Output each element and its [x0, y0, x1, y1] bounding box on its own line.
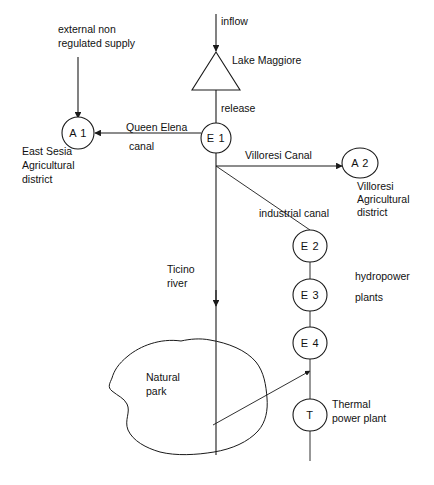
label-villoresi-district-line3: district [357, 206, 387, 218]
label-villoresi-canal: Villoresi Canal [245, 149, 312, 161]
label-queen-elena-canal-line1: Queen Elena [126, 121, 187, 133]
node-e1-label: E 1 [207, 132, 225, 144]
node-t-label: T [306, 409, 313, 421]
label-east-sesia-line2: Agricultural [22, 159, 75, 171]
label-hydropower-line2: plants [355, 291, 383, 303]
label-hydropower-line1: hydropower [355, 270, 410, 282]
label-inflow: inflow [221, 15, 248, 27]
label-thermal-plant-line1: Thermal [332, 398, 371, 410]
label-villoresi-district-line2: Agricultural [357, 193, 410, 205]
diagram-svg: A 1 E 1 A 2 E 2 E 3 E 4 T external non r… [0, 0, 434, 485]
node-e4-label: E 4 [301, 337, 319, 349]
label-natural-park-line2: park [146, 385, 167, 397]
node-natural-park-outline [109, 339, 267, 455]
label-release: release [221, 102, 256, 114]
label-lake-maggiore: Lake Maggiore [232, 54, 302, 66]
node-e3-label: E 3 [301, 289, 319, 301]
label-thermal-plant-line2: power plant [332, 412, 386, 424]
label-east-sesia-line3: district [22, 173, 52, 185]
label-queen-elena-canal-line2: canal [129, 140, 154, 152]
node-a1-label: A 1 [69, 127, 87, 139]
label-external-supply-line2: regulated supply [58, 37, 136, 49]
label-external-supply-line1: external non [58, 23, 116, 35]
node-a2-label: A 2 [351, 157, 369, 169]
label-ticino-river-line1: Ticino [167, 263, 195, 275]
label-villoresi-district-line1: Villoresi [357, 180, 394, 192]
node-e2-label: E 2 [301, 240, 319, 252]
label-ticino-river-line2: river [167, 277, 188, 289]
label-east-sesia-line1: East Sesia [22, 145, 72, 157]
edge-industrial-canal-to-e2 [216, 166, 310, 230]
label-industrial-canal: industrial canal [259, 207, 329, 219]
label-natural-park-line1: Natural [146, 371, 180, 383]
diagram-canvas: A 1 E 1 A 2 E 2 E 3 E 4 T external non r… [0, 0, 434, 485]
